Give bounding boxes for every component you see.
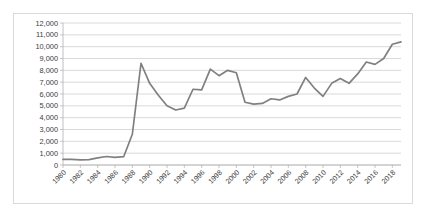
x-tick-label: 1980 <box>50 168 68 186</box>
y-tick-label: 8,000 <box>40 66 59 75</box>
x-tick-label: 2002 <box>241 168 259 186</box>
data-series <box>63 42 401 160</box>
x-tick-label: 1986 <box>102 168 120 186</box>
chart-figure: 12,00011,00010,0009,0008,0007,0006,0005,… <box>13 13 413 204</box>
y-tick-label: 9,000 <box>40 54 59 63</box>
x-tick-label: 1992 <box>154 168 172 186</box>
y-tick-label: 11,000 <box>36 30 58 39</box>
x-tick-label: 1982 <box>68 168 86 186</box>
x-tick-label: 2000 <box>224 168 242 186</box>
x-tick-label: 2008 <box>293 168 311 186</box>
gridlines <box>63 23 401 165</box>
x-tick-label: 2016 <box>362 168 380 186</box>
x-tick-label: 2006 <box>276 168 294 186</box>
x-tick-label: 1996 <box>189 168 207 186</box>
y-tick-label: 4,000 <box>40 113 59 122</box>
y-tick-label: 5,000 <box>40 101 59 110</box>
x-axis-tick-labels: 1980198219841986198819901992199419961998… <box>50 168 397 186</box>
y-axis-tickmarks <box>60 23 63 165</box>
x-tick-label: 1994 <box>172 168 190 186</box>
x-tick-label: 2018 <box>380 168 398 186</box>
y-tick-label: 12,000 <box>35 19 58 28</box>
x-tick-label: 1984 <box>85 168 103 186</box>
x-tick-label: 2004 <box>258 168 276 186</box>
y-tick-label: 3,000 <box>40 125 59 134</box>
y-tick-label: 1,000 <box>40 149 59 158</box>
x-tick-label: 2012 <box>328 168 346 186</box>
series-line <box>63 42 401 160</box>
x-tick-label: 2014 <box>345 168 363 186</box>
x-tick-label: 1998 <box>206 168 224 186</box>
y-tick-label: 6,000 <box>40 90 59 99</box>
x-tick-label: 1988 <box>120 168 138 186</box>
line-chart-plot: 12,00011,00010,0009,0008,0007,0006,0005,… <box>14 14 414 205</box>
y-axis-tick-labels: 12,00011,00010,0009,0008,0007,0006,0005,… <box>35 19 58 170</box>
y-tick-label: 10,000 <box>35 42 58 51</box>
x-axis-tickmarks <box>63 165 392 168</box>
y-tick-label: 0 <box>54 161 58 170</box>
x-tick-label: 1990 <box>137 168 155 186</box>
x-tick-label: 2010 <box>310 168 328 186</box>
y-tick-label: 7,000 <box>40 78 59 87</box>
y-tick-label: 2,000 <box>40 137 59 146</box>
